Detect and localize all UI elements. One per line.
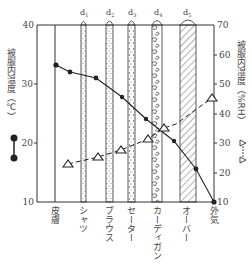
right-axis-title: 被服内湿度（%RH） xyxy=(236,40,246,125)
label-skin: 皮膚 xyxy=(50,206,60,224)
left-axis-title: 被服内温度（℃） xyxy=(6,48,16,121)
layer-d2-blouse xyxy=(106,21,113,202)
label-cardigan: カーディガン xyxy=(152,206,162,260)
tag-d2: d2 xyxy=(106,8,114,18)
layer-d3-sweater xyxy=(128,21,135,202)
rtick-60: 60 xyxy=(219,50,231,60)
tick-30: 30 xyxy=(22,79,34,89)
tick-20: 20 xyxy=(22,138,34,148)
rtick-50: 50 xyxy=(219,79,231,89)
tick-10: 10 xyxy=(23,197,35,207)
rtick-70: 70 xyxy=(217,20,229,30)
rtick-40: 40 xyxy=(219,109,231,119)
label-sweater: セーター xyxy=(126,206,136,242)
tag-d5: d5 xyxy=(183,8,191,18)
tick-40: 40 xyxy=(23,20,35,30)
tag-d1: d1 xyxy=(80,8,88,18)
tag-d3: d3 xyxy=(128,8,136,18)
label-blouse: ブラウス xyxy=(104,206,114,242)
left-axis: 40 30 20 10 xyxy=(22,20,37,207)
legend-humidity xyxy=(240,140,246,163)
layer-d4-cardigan xyxy=(152,21,162,203)
layer-tags: d1 d2 d3 d4 d5 xyxy=(80,8,191,18)
label-outside: 外気 xyxy=(209,206,219,224)
rtick-20: 20 xyxy=(219,168,231,178)
right-axis: 70 60 50 40 30 20 10 xyxy=(214,20,231,207)
label-overcoat: オーバー xyxy=(181,206,191,242)
rtick-30: 30 xyxy=(219,138,231,148)
legend-temperature xyxy=(11,135,18,162)
layer-d1-shirt xyxy=(81,22,86,203)
label-shirt: シャツ xyxy=(78,206,88,233)
tag-d4: d4 xyxy=(154,8,162,18)
